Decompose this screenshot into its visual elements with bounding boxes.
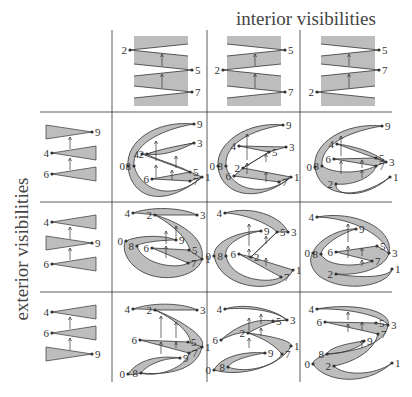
vertex-label: 6 — [44, 168, 50, 180]
vertex-dot — [212, 368, 215, 371]
vertex-label: 1 — [205, 171, 211, 183]
vertex-label: 1 — [205, 341, 211, 353]
vertex-dot — [90, 352, 93, 355]
vertex-dot — [150, 246, 153, 249]
vertex-label: 0 — [206, 364, 212, 376]
vertex-label: 0 — [307, 161, 313, 173]
vertex-dot — [267, 150, 270, 153]
vertex-label: 2 — [215, 64, 221, 76]
row-header-3: 469 — [44, 305, 102, 361]
cell-r3-c3: 0123456789 — [305, 303, 401, 379]
vertex-label: 7 — [282, 176, 288, 188]
vertex-label: 6 — [328, 246, 334, 258]
vertex-dot — [192, 122, 195, 125]
vertex-label: 1 — [294, 340, 300, 352]
vertex-dot — [390, 267, 393, 270]
vertex-label: 7 — [284, 271, 290, 283]
vertex-label: 6 — [44, 327, 50, 339]
vertex-dot — [283, 90, 286, 93]
vertex-dot — [384, 160, 387, 163]
vertex-dot — [224, 164, 227, 167]
vertex-label: 6 — [317, 316, 323, 328]
vertex-label: 2 — [147, 304, 153, 316]
vertex-dot — [188, 179, 191, 182]
vertex-label: 2 — [240, 327, 246, 339]
vertex-label: 2 — [326, 360, 332, 372]
vertex-dot — [315, 215, 318, 218]
vertex-dot — [50, 220, 53, 223]
vertex-label: 6 — [213, 334, 219, 346]
vertex-label: 9 — [286, 119, 292, 131]
vertex-dot — [387, 251, 390, 254]
vertex-dot — [131, 307, 134, 310]
vertex-label: 2 — [122, 44, 128, 56]
vertex-label: 4 — [125, 303, 131, 315]
vertex-dot — [388, 175, 391, 178]
vertex-dot — [263, 351, 266, 354]
vertex-label: 6 — [44, 258, 50, 270]
vertex-label: 0 — [305, 358, 311, 370]
cell-r3-c1: 0123456789 — [120, 303, 211, 380]
vertex-dot — [323, 320, 326, 323]
vertex-label: 0 — [206, 250, 212, 262]
vertex-label: 1 — [296, 264, 302, 276]
vertex-label: 6 — [144, 242, 150, 254]
vertex-label: 7 — [381, 328, 387, 340]
vertex-dot — [375, 244, 378, 247]
vertex-dot — [362, 339, 365, 342]
vertex-label: 2 — [254, 251, 260, 263]
vertex-dot — [334, 272, 337, 275]
vertex-dot — [50, 172, 53, 175]
vertex-dot — [90, 241, 93, 244]
vertex-dot — [124, 239, 127, 242]
vertex-dot — [320, 164, 323, 167]
vertex-label: 9 — [95, 126, 101, 138]
polygon-band — [218, 125, 291, 194]
vertex-label: 4 — [329, 138, 335, 150]
vertex-dot — [128, 48, 131, 51]
vertex-dot — [277, 180, 280, 183]
vertex-label: 3 — [289, 141, 295, 153]
vertex-label: 7 — [193, 175, 199, 187]
vertex-dot — [190, 90, 193, 93]
vertex-dot — [212, 254, 215, 257]
vertex-dot — [223, 211, 226, 214]
vertex-dot — [377, 48, 380, 51]
vertex-label: 8 — [319, 348, 325, 360]
vertex-label: 4 — [217, 207, 223, 219]
row-header-2: 496 — [44, 215, 102, 271]
vertex-dot — [150, 177, 153, 180]
vertex-dot — [237, 252, 240, 255]
vertex-label: 7 — [375, 255, 381, 267]
vertex-dot — [219, 338, 222, 341]
vertex-label: 6 — [326, 153, 332, 165]
vertex-dot — [226, 365, 229, 368]
vertex-dot — [195, 308, 198, 311]
vertex-dot — [195, 213, 198, 216]
vertex-label: 8 — [129, 240, 135, 252]
vertex-dot — [132, 164, 135, 167]
vertex-label: 9 — [95, 237, 101, 249]
vertex-label: 9 — [385, 120, 391, 132]
vertex-label: 2 — [328, 268, 334, 280]
vertex-label: 6 — [226, 170, 232, 182]
vertex-dot — [153, 213, 156, 216]
vertex-label: 5 — [382, 44, 388, 56]
cell-r3-c2: 0123456789 — [206, 303, 300, 376]
vertex-label: 2 — [235, 162, 241, 174]
vertex-dot — [138, 338, 141, 341]
vertex-label: 8 — [314, 160, 320, 172]
vertex-label: 7 — [192, 347, 198, 359]
vertex-dot — [223, 307, 226, 310]
vertex-label: 8 — [218, 160, 224, 172]
vertex-label: 0 — [210, 160, 216, 172]
vertex-dot — [153, 308, 156, 311]
vertex-dot — [188, 170, 191, 173]
vertex-label: 2 — [328, 178, 334, 190]
vertex-dot — [200, 175, 203, 178]
vertex-label: 7 — [288, 86, 294, 98]
vertex-dot — [178, 356, 181, 359]
vertex-label: 9 — [359, 223, 365, 235]
column-header-1: 257 — [122, 36, 202, 106]
vertex-dot — [335, 142, 338, 145]
